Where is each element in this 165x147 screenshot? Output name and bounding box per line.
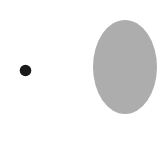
- figure-canvas: small dark dot large gray ellipse: [0, 0, 165, 147]
- large-gray-ellipse: [93, 20, 157, 114]
- small-black-dot: [20, 65, 32, 77]
- shapes-svg: [0, 0, 165, 147]
